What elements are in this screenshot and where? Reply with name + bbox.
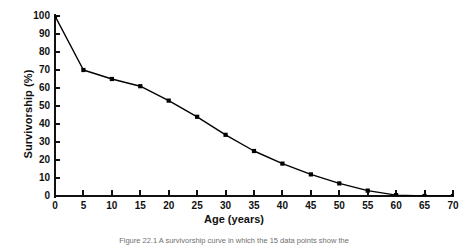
y-tick-label: 30 bbox=[24, 137, 50, 147]
data-point-marker bbox=[195, 115, 199, 119]
data-point-marker bbox=[138, 84, 142, 88]
x-tick-label: 30 bbox=[213, 200, 239, 211]
y-tick-label: 20 bbox=[24, 155, 50, 165]
data-point-marker bbox=[451, 194, 453, 196]
survivorship-series bbox=[55, 16, 453, 196]
data-point-marker bbox=[223, 133, 227, 137]
series-line bbox=[55, 16, 453, 196]
y-tick-label: 80 bbox=[24, 47, 50, 57]
y-tick-label: 100 bbox=[24, 11, 50, 21]
y-tick-label: 60 bbox=[24, 83, 50, 93]
y-tick-label: 40 bbox=[24, 119, 50, 129]
y-tick-label: 10 bbox=[24, 173, 50, 183]
x-tick-label: 5 bbox=[70, 200, 96, 211]
x-tick-label: 60 bbox=[383, 200, 409, 211]
data-point-marker bbox=[252, 149, 256, 153]
x-tick-label: 25 bbox=[184, 200, 210, 211]
y-tick-label: 90 bbox=[24, 29, 50, 39]
data-point-marker bbox=[55, 16, 57, 18]
x-tick-label: 45 bbox=[298, 200, 324, 211]
plot-area bbox=[55, 16, 453, 196]
x-tick-label: 55 bbox=[355, 200, 381, 211]
figure-caption: Figure 22.1 A survivorship curve in whic… bbox=[0, 236, 468, 245]
x-tick-label: 10 bbox=[99, 200, 125, 211]
data-point-marker bbox=[110, 77, 114, 81]
y-tick-label: 50 bbox=[24, 101, 50, 111]
x-tick-label: 65 bbox=[412, 200, 438, 211]
x-tick-label: 20 bbox=[156, 200, 182, 211]
x-tick-label: 50 bbox=[326, 200, 352, 211]
data-point-marker bbox=[337, 181, 341, 185]
y-tick-label: 70 bbox=[24, 65, 50, 75]
survivorship-figure: Survivorship (%) 0102030405060708090100 … bbox=[0, 0, 468, 248]
data-point-marker bbox=[394, 193, 398, 196]
data-point-marker bbox=[309, 172, 313, 176]
x-axis-label: Age (years) bbox=[0, 213, 468, 225]
data-point-marker bbox=[167, 99, 171, 103]
x-tick-label: 35 bbox=[241, 200, 267, 211]
data-point-marker bbox=[81, 68, 85, 72]
data-point-marker bbox=[366, 189, 370, 193]
x-tick-label: 0 bbox=[42, 200, 68, 211]
data-point-marker bbox=[280, 162, 284, 166]
y-axis-label: Survivorship (%) bbox=[22, 34, 34, 194]
x-tick-label: 70 bbox=[440, 200, 466, 211]
x-tick-label: 15 bbox=[127, 200, 153, 211]
x-tick-label: 40 bbox=[269, 200, 295, 211]
data-point-marker bbox=[422, 194, 426, 196]
